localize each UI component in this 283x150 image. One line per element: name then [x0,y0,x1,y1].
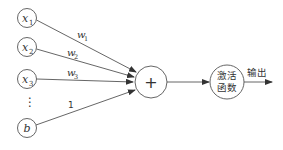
input-sub-x2: 2 [29,48,33,56]
activation-line1: 激活 [217,70,237,81]
ellipsis: ⋮ [24,95,36,109]
edge-x1-sum [37,20,137,72]
neuron-diagram: x 1 x 2 x 3 ⋮ b w 1 w 2 w 3 1 + [0,0,283,150]
output-label: 输出 [247,67,267,78]
input-node-x3: x 3 [18,70,37,89]
svg-text:1: 1 [84,35,88,43]
input-label-x3: x [22,73,29,86]
input-label-x1: x [22,12,29,25]
svg-text:2: 2 [74,53,78,61]
input-node-x2: x 2 [18,38,37,57]
weight-w3: w 3 [67,67,78,81]
bias-node: b [18,119,37,138]
plus-icon: + [144,73,157,92]
edge-x3-sum [37,79,134,82]
edge-b-sum [36,90,135,125]
activation-node: 激活 函数 [210,65,244,99]
activation-line2: 函数 [217,82,237,93]
sum-node: + [135,66,167,98]
bias-label: b [24,122,31,135]
svg-text:3: 3 [74,73,78,81]
weight-bias: 1 [68,100,74,110]
input-sub-x1: 1 [29,19,33,27]
weight-w1: w 1 [77,29,88,43]
input-sub-x3: 3 [29,80,33,88]
input-label-x2: x [22,41,29,54]
input-node-x1: x 1 [18,9,37,28]
